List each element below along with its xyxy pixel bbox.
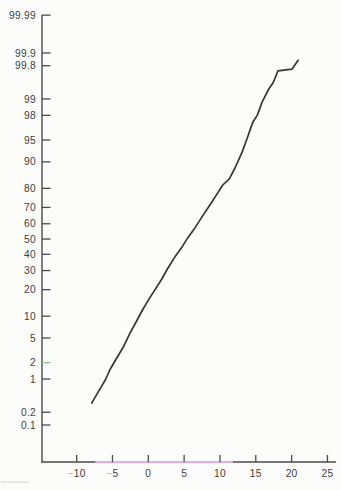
- x-tick-label: 10: [214, 468, 226, 479]
- y-tick-label: 80: [24, 183, 36, 194]
- y-tick-label: 70: [24, 202, 36, 213]
- y-tick-label: 0.1: [21, 420, 36, 431]
- y-tick-label: 2: [30, 357, 36, 368]
- y-tick-label: 40: [24, 249, 36, 260]
- data-curve: [92, 60, 298, 403]
- x-tick-label: −5: [106, 468, 118, 479]
- y-tick-label: 5: [30, 333, 36, 344]
- y-tick-label: 99.9: [15, 48, 36, 59]
- chart-canvas: 99.9999.999.8999895908070605040302010521…: [0, 0, 341, 490]
- x-tick-label: 5: [181, 468, 187, 479]
- y-tick-label: 99.99: [9, 10, 36, 21]
- y-tick-label: 99.8: [15, 60, 36, 71]
- y-tick-label: 98: [24, 110, 36, 121]
- x-tick-number: 5: [113, 468, 119, 479]
- y-tick-label: 30: [24, 265, 36, 276]
- x-tick-label: −10: [68, 468, 86, 479]
- x-tick-label: 20: [286, 468, 298, 479]
- y-tick-label: 50: [24, 234, 36, 245]
- scan-artifact: [1, 481, 29, 483]
- y-tick-label: 20: [24, 284, 36, 295]
- y-tick-label: 0.2: [21, 407, 36, 418]
- x-tick-label: 15: [250, 468, 262, 479]
- y-tick-label: 10: [24, 311, 36, 322]
- probability-plot: 99.9999.999.8999895908070605040302010521…: [0, 0, 341, 490]
- x-tick-number: 10: [74, 468, 86, 479]
- y-tick-label: 1: [30, 374, 36, 385]
- y-tick-label: 60: [24, 218, 36, 229]
- y-tick-label: 95: [24, 135, 36, 146]
- x-tick-label: 25: [321, 468, 333, 479]
- y-tick-label: 90: [24, 156, 36, 167]
- y-tick-label: 99: [24, 94, 36, 105]
- x-tick-label: 0: [145, 468, 151, 479]
